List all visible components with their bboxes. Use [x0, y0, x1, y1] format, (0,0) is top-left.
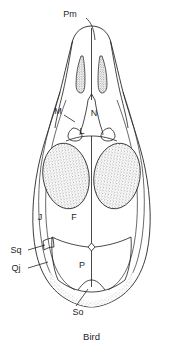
skull-outline-group	[33, 26, 150, 307]
label-nasal: N	[91, 108, 98, 118]
label-frontal: F	[71, 212, 77, 222]
label-premaxilla: Pm	[63, 9, 77, 19]
label-jugal: J	[38, 212, 43, 222]
label-lacrimal: L	[79, 126, 84, 136]
figure-caption: Bird	[83, 331, 100, 342]
label-parietal: P	[79, 260, 85, 270]
label-supraoccipital: So	[72, 307, 83, 317]
label-maxilla: M	[54, 106, 62, 116]
label-squamosal: Sq	[10, 245, 21, 255]
label-quadratojugal: Qj	[12, 263, 21, 273]
bird-skull-figure: Pm M N L J F P Sq Qj So Bird	[0, 0, 183, 347]
